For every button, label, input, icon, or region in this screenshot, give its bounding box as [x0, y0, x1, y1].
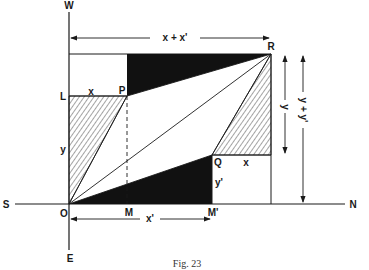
point-label-m: M: [125, 207, 133, 218]
figure-caption: Fig. 23: [173, 258, 201, 269]
point-label-r: R: [267, 41, 275, 52]
bottom-dim-label: x': [146, 213, 154, 224]
axis-label-n: N: [349, 199, 356, 210]
right-y-label: y: [280, 104, 291, 110]
point-label-l: L: [60, 91, 66, 102]
axis-label-s: S: [3, 199, 10, 210]
axis-label-e: E: [67, 253, 74, 264]
right-total-label: y + y': [298, 98, 309, 123]
point-label-q: Q: [214, 157, 222, 168]
segment-label-q-x: x: [243, 157, 249, 168]
segment-label-lp-x: x: [88, 86, 94, 97]
figure-23-diagram: x + x' x' y y + y' W E S N O L P R Q M M…: [0, 0, 369, 270]
segment-label-left-y: y: [60, 144, 66, 155]
segment-label-q-y-prime: y': [215, 177, 223, 188]
top-dim-label: x + x': [163, 32, 188, 43]
axis-label-w: W: [64, 0, 74, 11]
point-label-m-prime: M': [208, 207, 219, 218]
point-label-o: O: [60, 208, 68, 219]
point-label-p: P: [119, 85, 126, 96]
